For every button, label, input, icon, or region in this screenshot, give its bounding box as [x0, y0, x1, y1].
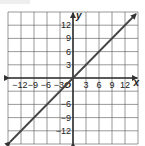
svg-text:9: 9: [109, 80, 114, 90]
svg-text:6: 6: [96, 80, 101, 90]
svg-text:12: 12: [120, 80, 130, 90]
svg-text:3: 3: [83, 80, 88, 90]
svg-text:−12: −12: [12, 80, 27, 90]
svg-text:x: x: [132, 77, 139, 88]
svg-text:−12: −12: [56, 126, 71, 136]
svg-text:−6: −6: [61, 99, 71, 109]
svg-text:12: 12: [61, 20, 71, 30]
svg-text:−9: −9: [28, 80, 38, 90]
svg-text:−6: −6: [41, 80, 51, 90]
coordinate-plane-chart: xy−12−9−6−33691212963−6−9−12O: [0, 0, 145, 146]
svg-text:9: 9: [66, 33, 71, 43]
svg-text:−9: −9: [61, 113, 71, 123]
svg-text:y: y: [75, 10, 82, 21]
svg-text:3: 3: [66, 60, 71, 70]
svg-text:6: 6: [66, 47, 71, 57]
